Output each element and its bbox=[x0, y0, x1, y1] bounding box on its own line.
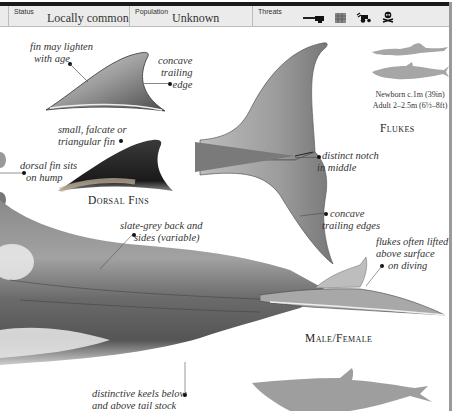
caption-dorsal-hump: dorsal fin sits on hump bbox=[20, 160, 77, 184]
pointer-dot bbox=[22, 171, 26, 175]
caption-keels: distinctive keels below and above tail s… bbox=[92, 388, 186, 411]
info-bar: Status Locally common Population Unknown… bbox=[0, 6, 449, 27]
threats-label: Threats bbox=[258, 8, 282, 15]
pointer-dot bbox=[119, 139, 123, 143]
caption-flukes-lifted: flukes often lifted above surface on div… bbox=[376, 236, 448, 272]
population-value: Unknown bbox=[172, 11, 219, 26]
heading-flukes: Flukes bbox=[380, 122, 415, 134]
net-icon bbox=[335, 9, 346, 27]
skull-crossbones-icon bbox=[382, 9, 394, 27]
diver-silhouette bbox=[370, 38, 450, 60]
size-adult: Adult 2–2.5m (6½–8ft) bbox=[370, 100, 450, 111]
pointer-line bbox=[98, 235, 134, 271]
pointer-line bbox=[364, 266, 384, 288]
status-value: Locally common bbox=[47, 11, 129, 26]
threats-cell: Threats bbox=[252, 6, 450, 26]
caption-fin-shape: small, falcate or triangular fin bbox=[58, 124, 127, 148]
dolphin-size-silhouette bbox=[370, 60, 450, 84]
population-label: Population bbox=[135, 8, 168, 15]
pointer-line bbox=[183, 362, 187, 394]
heading-male-female: Male/Female bbox=[305, 332, 372, 344]
caption-fin-lighten: fin may lighten with age bbox=[30, 41, 93, 65]
dolphin-silhouette-bottom bbox=[250, 368, 440, 411]
size-newborn: Newborn c.1m (39in) bbox=[370, 89, 450, 100]
tractor-pollution-icon bbox=[356, 9, 372, 27]
status-cell: Status Locally common bbox=[8, 6, 130, 26]
caption-distinct-notch: distinct notch in middle bbox=[322, 150, 379, 174]
size-text: Newborn c.1m (39in) Adult 2–2.5m (6½–8ft… bbox=[370, 89, 450, 111]
pointer-line bbox=[295, 156, 319, 160]
pointer-line bbox=[70, 64, 92, 86]
status-label: Status bbox=[14, 8, 34, 15]
pointer-line bbox=[144, 82, 170, 86]
gun-icon bbox=[303, 9, 325, 27]
population-cell: Population Unknown bbox=[129, 6, 253, 26]
